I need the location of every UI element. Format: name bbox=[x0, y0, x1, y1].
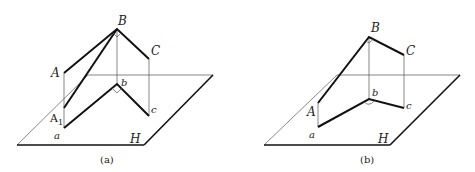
line-BA1 bbox=[64, 29, 117, 108]
label-H: H bbox=[377, 132, 389, 146]
label-b: b bbox=[121, 77, 127, 88]
label-a: a bbox=[54, 130, 60, 141]
figure-a: B C A A1 a b c H (a) bbox=[17, 14, 213, 165]
figure-b: B C A a b c H (b) bbox=[264, 21, 460, 165]
label-c: c bbox=[151, 104, 157, 115]
caption-b: (b) bbox=[360, 154, 374, 165]
label-H: H bbox=[129, 132, 141, 146]
label-a: a bbox=[309, 129, 315, 140]
label-b: b bbox=[372, 87, 378, 98]
label-A1: A1 bbox=[49, 112, 63, 127]
label-B: B bbox=[117, 14, 127, 28]
label-C: C bbox=[151, 44, 160, 58]
angle-ABC bbox=[318, 37, 404, 103]
label-A: A bbox=[306, 105, 316, 119]
label-A: A bbox=[50, 66, 60, 80]
projection-abc bbox=[318, 99, 404, 127]
caption-a: (a) bbox=[100, 154, 114, 165]
diagram-canvas: B C A A1 a b c H (a) B C A a b bbox=[0, 0, 475, 172]
angle-ABC bbox=[64, 29, 149, 73]
label-c: c bbox=[406, 100, 412, 111]
plane-left-edge bbox=[17, 75, 88, 145]
plane-right-edge bbox=[390, 75, 460, 145]
label-C: C bbox=[406, 44, 415, 58]
plane-left-edge bbox=[264, 75, 337, 145]
label-B: B bbox=[370, 21, 380, 35]
plane-h-b bbox=[264, 75, 460, 145]
